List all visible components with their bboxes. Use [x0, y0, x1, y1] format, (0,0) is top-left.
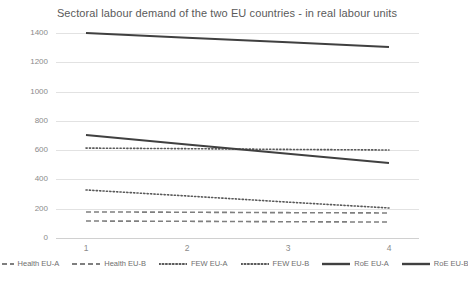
legend-item-roe-eu-a[interactable]: RoE EU-A [322, 259, 389, 268]
y-tick-label: 800 [14, 117, 48, 125]
legend-label: Health EU-B [104, 259, 146, 268]
y-tick-label: 1000 [14, 88, 48, 96]
y-tick-label: 400 [14, 175, 48, 183]
series-line-roe-eu-a [86, 33, 389, 47]
y-tick-label: 1200 [14, 58, 48, 66]
chart-legend: Health EU-AHealth EU-BFEW EU-AFEW EU-BRo… [0, 259, 454, 268]
legend-label: FEW EU-A [191, 259, 228, 268]
legend-swatch-dashed [72, 259, 100, 268]
x-axis-line [56, 238, 419, 239]
series-lines [56, 33, 419, 238]
x-tick-label: 4 [374, 244, 404, 253]
x-tick-label: 1 [71, 244, 101, 253]
y-tick-label: 0 [14, 234, 48, 242]
chart-title: Sectoral labour demand of the two EU cou… [0, 7, 454, 19]
series-line-health-eu-b [86, 221, 389, 222]
legend-item-roe-eu-b[interactable]: RoE EU-B [402, 259, 468, 268]
legend-label: FEW EU-B [273, 259, 310, 268]
legend-item-health-eu-a[interactable]: Health EU-A [0, 259, 59, 268]
x-tick-label: 3 [273, 244, 303, 253]
legend-label: RoE EU-A [354, 259, 389, 268]
y-tick-label: 200 [14, 205, 48, 213]
y-tick-label: 600 [14, 146, 48, 154]
legend-item-few-eu-b[interactable]: FEW EU-B [241, 259, 310, 268]
y-tick-label: 1400 [14, 29, 48, 37]
x-tick-label: 2 [172, 244, 202, 253]
legend-swatch-dashed [0, 259, 14, 268]
legend-swatch-dotted [159, 259, 187, 268]
legend-swatch-dotted [241, 259, 269, 268]
legend-label: Health EU-A [18, 259, 60, 268]
legend-label: RoE EU-B [434, 259, 468, 268]
legend-swatch-solid [402, 259, 430, 268]
series-line-few-eu-b [86, 190, 389, 208]
legend-swatch-solid [322, 259, 350, 268]
legend-item-health-eu-b[interactable]: Health EU-B [72, 259, 146, 268]
legend-item-few-eu-a[interactable]: FEW EU-A [159, 259, 228, 268]
series-line-health-eu-a [86, 212, 389, 213]
